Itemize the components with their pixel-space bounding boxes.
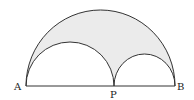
label-a: A bbox=[13, 81, 22, 92]
label-b: B bbox=[177, 81, 184, 92]
label-p: P bbox=[110, 89, 117, 100]
diagram-svg: A P B bbox=[0, 0, 194, 100]
arbelos-diagram: A P B bbox=[0, 0, 194, 100]
